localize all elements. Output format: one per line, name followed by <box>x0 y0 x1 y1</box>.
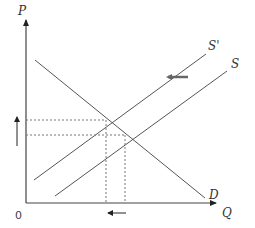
demand-curve <box>35 60 205 198</box>
y-axis-label: P <box>17 4 27 18</box>
supply-shifted-curve <box>34 54 206 180</box>
origin-label: 0 <box>15 209 22 222</box>
x-axis-label: Q <box>222 206 232 220</box>
supply-curve <box>55 71 227 196</box>
supply-demand-diagram: P Q 0 D S' S <box>0 0 255 228</box>
supply-shifted-label: S' <box>208 39 220 53</box>
supply-label: S <box>231 57 239 71</box>
demand-label: D <box>208 188 219 202</box>
